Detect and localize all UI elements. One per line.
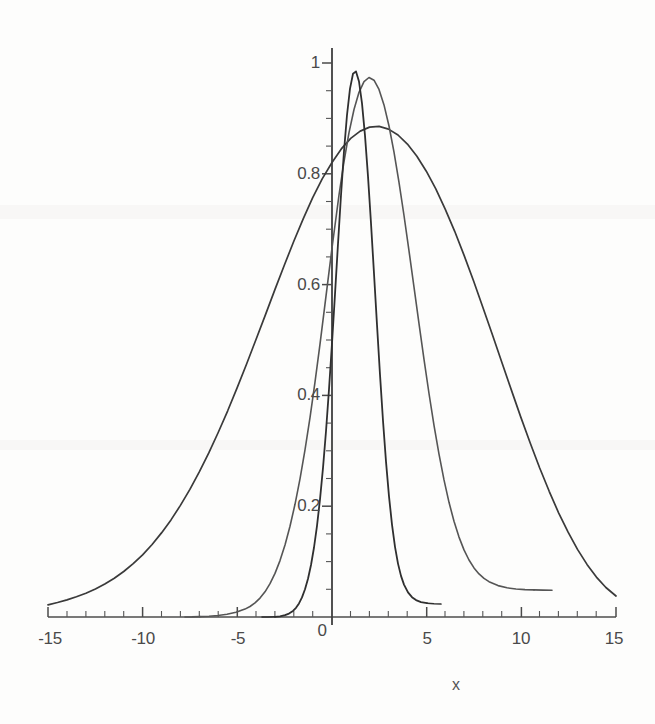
y-tick-label-0point4: 0.4 xyxy=(290,385,320,405)
y-tick-label-0point6: 0.6 xyxy=(290,275,320,295)
curve-narrowest-tail-right xyxy=(427,603,441,604)
x-tick-label-5: 5 xyxy=(422,629,431,649)
figure-container: -15 -10 -5 0 5 10 15 0.2 0.4 0.6 0.8 1 x xyxy=(0,0,655,724)
y-tick-label-0point8: 0.8 xyxy=(290,164,320,184)
chart-plot-area xyxy=(0,0,655,724)
y-tick-label-0point2: 0.2 xyxy=(290,496,320,516)
curve-narrowest xyxy=(275,71,427,616)
y-tick-label-1: 1 xyxy=(290,53,320,73)
x-tick-label-zero: 0 xyxy=(317,621,326,641)
x-tick-label-10: 10 xyxy=(512,629,530,649)
x-tick-label-neg15: -15 xyxy=(38,629,62,649)
x-tick-label-15: 15 xyxy=(605,629,623,649)
x-tick-label-neg5: -5 xyxy=(231,629,246,649)
x-axis-title: x xyxy=(452,676,460,694)
x-tick-label-neg10: -10 xyxy=(131,629,155,649)
